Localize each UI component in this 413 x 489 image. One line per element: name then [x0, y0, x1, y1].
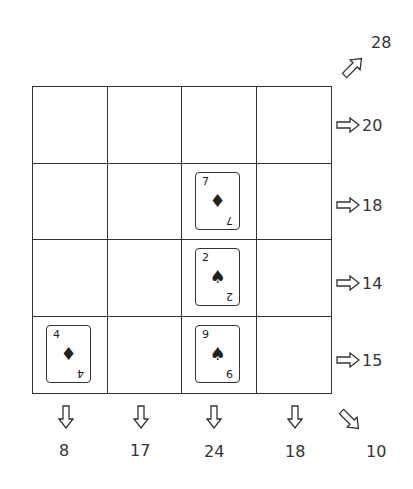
grid-cell[interactable]: 7 ♦ 7: [182, 164, 257, 241]
arrow-right-icon: [336, 197, 360, 213]
card-rank: 4: [77, 367, 84, 380]
grid-cell[interactable]: 4 ♦ 4: [33, 317, 108, 394]
arrow-right-icon: [336, 352, 360, 368]
spade-icon: ♠: [196, 267, 239, 287]
grid-cell[interactable]: [33, 164, 108, 241]
arrow-down-icon: [133, 405, 149, 429]
row-sum-2: 18: [362, 196, 382, 215]
grid-cell[interactable]: [108, 240, 183, 317]
row-sum-3: 14: [362, 274, 382, 293]
grid-cell[interactable]: [257, 164, 332, 241]
card[interactable]: 4 ♦ 4: [46, 325, 91, 383]
card-rank: 2: [226, 290, 233, 303]
grid-cell[interactable]: 2 ♠ 2: [182, 240, 257, 317]
card[interactable]: 7 ♦ 7: [195, 172, 240, 230]
card-rank: 4: [53, 328, 60, 341]
grid-cell[interactable]: [257, 87, 332, 164]
diag-down-sum: 10: [366, 442, 386, 461]
row-sum-4: 15: [362, 351, 382, 370]
card[interactable]: 2 ♠ 2: [195, 248, 240, 306]
diag-up-sum: 28: [371, 33, 391, 52]
row-sum-1: 20: [362, 116, 382, 135]
diamond-icon: ♦: [47, 344, 90, 364]
diamond-icon: ♦: [196, 191, 239, 211]
puzzle-grid: 7 ♦ 7 2 ♠ 2 4 ♦ 4 9 ♠ 9: [32, 86, 332, 394]
arrow-diagonal-down-icon: [337, 407, 363, 433]
card-rank: 7: [202, 175, 209, 188]
grid-cell[interactable]: [108, 87, 183, 164]
card-rank: 9: [202, 328, 209, 341]
grid-cell[interactable]: [33, 240, 108, 317]
grid-cell[interactable]: [108, 317, 183, 394]
arrow-down-icon: [206, 405, 222, 429]
grid-cell[interactable]: [257, 240, 332, 317]
arrow-diagonal-up-icon: [340, 54, 366, 80]
spade-icon: ♠: [196, 344, 239, 364]
grid-cell[interactable]: [257, 317, 332, 394]
col-sum-1: 8: [59, 441, 69, 460]
arrow-right-icon: [336, 275, 360, 291]
grid-cell[interactable]: 9 ♠ 9: [182, 317, 257, 394]
grid-cell[interactable]: [108, 164, 183, 241]
col-sum-3: 24: [204, 442, 224, 461]
card[interactable]: 9 ♠ 9: [195, 325, 240, 383]
card-rank: 2: [202, 251, 209, 264]
arrow-down-icon: [287, 405, 303, 429]
col-sum-4: 18: [285, 442, 305, 461]
grid-cell[interactable]: [33, 87, 108, 164]
grid-cell[interactable]: [182, 87, 257, 164]
arrow-down-icon: [58, 405, 74, 429]
col-sum-2: 17: [130, 441, 150, 460]
arrow-right-icon: [336, 117, 360, 133]
card-rank: 7: [226, 214, 233, 227]
card-rank: 9: [226, 367, 233, 380]
